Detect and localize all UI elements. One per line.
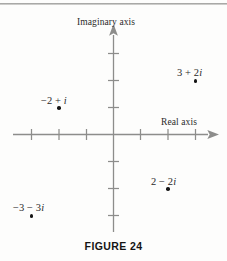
figure-24: Imaginary axis Real axis 3 + 2i −2 + i 2… (0, 0, 227, 261)
point-label-op: − (156, 176, 167, 187)
data-point-3-plus-2i (194, 79, 198, 83)
point-label-i: i (173, 176, 176, 187)
point-label-re: −3 (13, 202, 24, 213)
figure-caption: FIGURE 24 (0, 240, 227, 252)
data-point-minus2-plus-i (57, 106, 61, 110)
point-label-3-plus-2i: 3 + 2i (177, 68, 202, 79)
point-label-op: + (182, 67, 193, 78)
point-label-2-minus-2i: 2 − 2i (151, 177, 176, 188)
point-label-minus2-plus-i: −2 + i (41, 96, 67, 107)
point-label-i: i (41, 202, 44, 213)
point-label-i: i (199, 67, 202, 78)
complex-plane-plot (0, 0, 227, 261)
point-label-op: + (52, 95, 63, 106)
point-label-minus3-minus-3i: −3 − 3i (13, 203, 44, 214)
real-axis-label: Real axis (161, 118, 197, 128)
point-label-i: i (64, 95, 67, 106)
data-point-minus3-minus-3i (30, 214, 34, 218)
point-label-re: −2 (41, 95, 52, 106)
point-label-op: − (24, 202, 35, 213)
imaginary-axis-label: Imaginary axis (77, 18, 135, 28)
data-point-2-minus-2i (166, 187, 170, 191)
